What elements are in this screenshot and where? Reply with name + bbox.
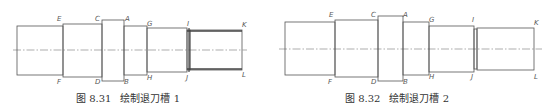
label-j: J: [184, 74, 188, 82]
shaft-drawing-2: E F C D A B G H I J K L: [275, 0, 550, 90]
shaft-collar-cadb: [378, 16, 403, 81]
label-l: L: [534, 73, 538, 81]
label-e: E: [329, 11, 334, 19]
shaft-drawing-1: E F C D A B G H I J K L: [0, 0, 275, 90]
label-d: D: [95, 78, 101, 86]
label-c: C: [95, 15, 100, 23]
label-l: L: [242, 71, 246, 79]
figure-caption-1: 图 8.31绘制退刀槽 1: [76, 90, 180, 105]
figure-8-32: E F C D A B G H I J K L 图 8.32绘制退刀槽 2: [275, 0, 550, 90]
label-k: K: [242, 21, 248, 29]
shaft-segment-gh: [403, 22, 429, 75]
label-h: H: [429, 73, 435, 81]
shaft-segment-ef: [335, 20, 378, 77]
shaft-segment-gh: [124, 26, 147, 75]
shaft-segment-1: [285, 22, 335, 75]
label-b: B: [124, 78, 129, 86]
label-b: B: [403, 78, 408, 86]
shaft-collar-cadb: [102, 20, 124, 81]
shaft-segment-1: [17, 26, 63, 75]
label-e: E: [57, 15, 62, 23]
caption-text: 绘制退刀槽 2: [389, 93, 449, 104]
label-f: F: [328, 78, 333, 86]
shaft-segment-ef: [63, 24, 102, 77]
label-c: C: [371, 11, 376, 19]
caption-number: 图 8.31: [76, 93, 111, 104]
label-i: I: [187, 20, 189, 28]
label-k: K: [534, 19, 540, 27]
figure-caption-2: 图 8.32绘制退刀槽 2: [345, 90, 449, 105]
label-j: J: [469, 73, 473, 81]
label-f: F: [57, 78, 62, 86]
label-g: G: [429, 16, 435, 24]
label-a: A: [124, 15, 130, 23]
figure-8-31: E F C D A B G H I J K L 图 8.31绘制退刀槽 1: [0, 0, 275, 90]
label-g: G: [147, 20, 153, 28]
caption-number: 图 8.32: [345, 93, 380, 104]
label-a: A: [402, 11, 408, 19]
label-h: H: [147, 74, 153, 82]
caption-text: 绘制退刀槽 1: [120, 93, 180, 104]
label-i: I: [472, 16, 474, 24]
label-d: D: [371, 78, 377, 86]
